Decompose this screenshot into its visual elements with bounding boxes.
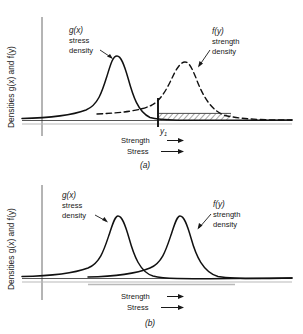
panel-a-caption: (a) xyxy=(140,160,150,170)
panel-b-strength-leader-arrow xyxy=(198,223,203,230)
panel-b-strength-curve xyxy=(88,216,292,279)
panel-b-strength-arrow-head xyxy=(178,294,184,299)
panel-b-stress-curve xyxy=(22,216,292,279)
panel-a-strength-label-line2: density xyxy=(212,47,236,56)
panel-b-strength-label-line1: strength xyxy=(213,210,240,219)
panel-a-stress-axis-label: Stress xyxy=(127,147,149,156)
panel-a-strength-arrow-head xyxy=(178,138,184,143)
panel-a-stress-arrow-head xyxy=(178,149,184,154)
panel-b-strength-symbol: f(y) xyxy=(213,200,225,209)
panel-b-strength-label-line2: density xyxy=(213,220,237,229)
panel-a-stress-symbol: g(x) xyxy=(69,26,83,35)
panel-b-stress-symbol: g(x) xyxy=(62,191,76,200)
panel-b-caption: (b) xyxy=(145,318,155,328)
panel-b-y-axis-label: Densities g(x) and f(y) xyxy=(6,208,16,290)
panel-a-threshold-label: y1 xyxy=(159,127,167,137)
panel-a-interference-region xyxy=(159,114,231,121)
stress-strength-figure: Densities g(x) and f(y) y1 g(x) stress d… xyxy=(0,0,303,334)
panel-b-stress-label-line1: stress xyxy=(62,201,82,210)
panel-a: Densities g(x) and f(y) y1 g(x) stress d… xyxy=(6,17,292,170)
panel-b-stress-axis-label: Stress xyxy=(127,303,149,312)
panel-b-stress-arrow-head xyxy=(178,305,184,310)
panel-b-strength-axis-label: Strength xyxy=(121,292,150,301)
panel-b: Densities g(x) and f(y) g(x) stress dens… xyxy=(6,185,292,328)
panel-a-stress-curve xyxy=(22,56,292,120)
panel-a-strength-symbol: f(y) xyxy=(212,27,224,36)
panel-a-strength-axis-label: Strength xyxy=(121,136,150,145)
panel-a-strength-label-line1: strength xyxy=(212,37,239,46)
panel-a-stress-label-line2: density xyxy=(69,46,93,55)
panel-a-stress-label-line1: stress xyxy=(69,36,89,45)
panel-a-y-axis-label: Densities g(x) and f(y) xyxy=(6,46,16,128)
panel-b-stress-leader-arrow xyxy=(102,217,108,223)
panel-b-stress-label-line2: density xyxy=(62,211,86,220)
